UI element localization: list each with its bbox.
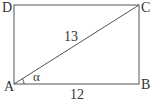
diagonal-length-label: 13	[64, 29, 78, 44]
angle-label-alpha: α	[33, 69, 40, 84]
rectangle-diagram: D C B A 13 12 α	[0, 0, 154, 101]
vertex-label-a: A	[4, 79, 15, 94]
angle-arc-alpha	[23, 79, 25, 84]
vertex-label-d: D	[2, 0, 12, 15]
vertex-label-c: C	[141, 0, 150, 15]
side-ab-length-label: 12	[70, 87, 84, 101]
vertex-label-b: B	[141, 77, 150, 92]
